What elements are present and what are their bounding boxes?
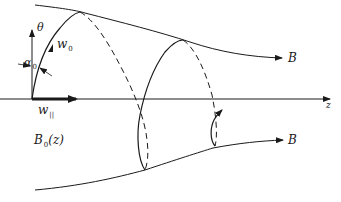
trajectory-dashed-1 (80, 12, 148, 170)
w-parallel-subscript: || (49, 111, 54, 119)
theta-label: θ (37, 22, 44, 33)
B0z-label: B0(z) (34, 134, 64, 149)
alpha0-symbol: α (24, 56, 31, 69)
helical-trajectory-diagram (0, 0, 341, 202)
alpha0-right-tick (40, 68, 52, 76)
B0z-argument: (z) (48, 133, 64, 147)
z-axis-label: z (326, 101, 331, 110)
B-lower-label: B (288, 134, 297, 146)
w-parallel-label: w|| (38, 104, 54, 119)
B0z-symbol: B (34, 133, 43, 147)
B-upper-label: B (288, 52, 297, 64)
w0-symbol: w (57, 37, 67, 51)
trajectory-solid-2 (138, 40, 183, 170)
w0-label: w0 (57, 38, 73, 53)
trajectory-solid-3 (211, 110, 222, 146)
alpha0-subscript: 0 (32, 63, 36, 71)
alpha0-label: α0 (24, 57, 37, 71)
lower-field-line (35, 140, 283, 190)
w-parallel-symbol: w (38, 103, 48, 117)
w0-subscript: 0 (68, 45, 72, 53)
